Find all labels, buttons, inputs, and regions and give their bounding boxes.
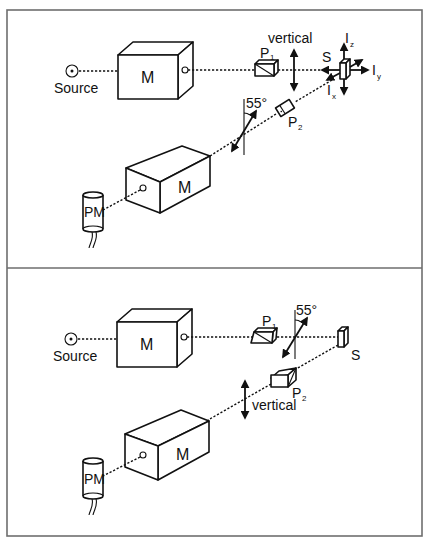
intensity-y-label: I xyxy=(372,62,376,78)
intensity-x-label: I xyxy=(327,82,331,98)
light-source-icon xyxy=(65,333,77,345)
monochromator-excitation xyxy=(117,309,192,367)
sample-label: S xyxy=(351,347,360,363)
monochromator-excitation xyxy=(118,42,193,99)
vertical-label: vertical xyxy=(268,30,312,46)
detector-label: PM xyxy=(84,471,105,487)
monochromator-excitation-label: M xyxy=(141,69,154,86)
vertical-label: vertical xyxy=(252,397,296,413)
ix-arrow xyxy=(327,73,340,80)
intensity-z-label: I xyxy=(345,30,349,46)
angle-label: 55° xyxy=(296,302,317,318)
panel-bottom: Source M P 1 55° S xyxy=(53,302,360,515)
intensity-x-sub: x xyxy=(332,92,336,101)
angle-label: 55° xyxy=(246,95,267,111)
polarizer-p1 xyxy=(255,60,278,76)
polarizer-p1-subscript: 1 xyxy=(270,53,275,62)
polarizer-p1-label: P xyxy=(262,313,271,329)
angle-arc xyxy=(295,320,301,322)
figure-canvas: Source M P 1 vertical S xyxy=(0,0,429,543)
polarizer-p1-subscript: 1 xyxy=(272,322,277,331)
sample-cuvette xyxy=(338,327,348,347)
sample-cuvette xyxy=(340,59,350,79)
intensity-z-sub: z xyxy=(350,40,354,49)
monochromator-emission-label: M xyxy=(178,179,191,196)
source-label: Source xyxy=(54,80,99,96)
light-source-icon xyxy=(66,65,78,77)
polarizer-p1-label: P xyxy=(260,45,269,61)
source-label: Source xyxy=(53,348,98,364)
monochromator-emission xyxy=(125,410,209,480)
iy-diag-arrow xyxy=(350,60,362,67)
monochromator-emission xyxy=(126,146,210,213)
polarizer-p2-subscript: 2 xyxy=(302,394,307,403)
polarizer-p2-subscript: 2 xyxy=(298,123,303,132)
angle-arc xyxy=(244,113,250,115)
detector-label: PM xyxy=(84,204,105,220)
panel-top: Source M P 1 vertical S xyxy=(54,30,381,248)
monochromator-emission-label: M xyxy=(176,446,189,463)
sample-label: S xyxy=(322,49,331,65)
beam-segment xyxy=(296,345,338,369)
intensity-y-sub: y xyxy=(377,72,381,81)
polarizer-p2-label: P xyxy=(288,114,297,130)
photomultiplier-detector xyxy=(83,192,103,248)
beam-segment xyxy=(210,114,276,156)
monochromator-excitation-label: M xyxy=(140,336,153,353)
